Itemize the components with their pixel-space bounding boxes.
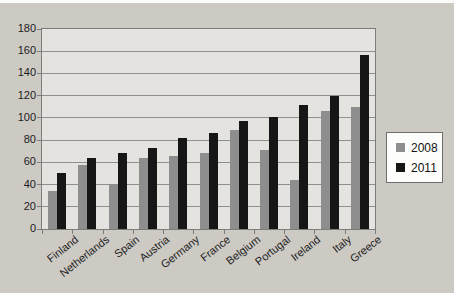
x-tick-8 [284,230,285,234]
plot-area [41,28,376,230]
bar-2011-france [209,133,218,229]
x-tick-2 [103,230,104,234]
x-axis-label-finland: Finland [45,233,81,265]
x-tick-10 [345,230,346,234]
y-tick-180 [37,29,41,30]
y-axis-label: 100 [18,112,36,123]
legend: 20082011 [386,132,443,183]
y-tick-40 [37,184,41,185]
y-axis-label: 60 [24,156,36,167]
x-axis-label-portugal: Portugal [253,233,293,268]
x-axis-label-greece: Greece [348,233,384,265]
y-axis-label: 80 [24,134,36,145]
bar-2008-austria [139,158,148,229]
y-axis-label: 20 [24,201,36,212]
x-tick-3 [133,230,134,234]
legend-item-2008: 2008 [396,142,442,154]
bar-2011-portugal [269,117,278,229]
bar-2008-finland [48,191,57,229]
x-tick-7 [254,230,255,234]
y-axis-label: 0 [30,223,36,234]
y-axis-label: 120 [18,90,36,101]
bar-2008-france [200,153,209,229]
bar-2008-ireland [290,180,299,229]
x-axis-label-france: France [198,233,232,264]
bar-2011-spain [118,153,127,229]
x-tick-6 [224,230,225,234]
bar-2011-ireland [299,105,308,229]
bar-2011-germany [178,138,187,229]
bar-2011-netherlands [87,158,96,229]
bar-2008-germany [169,156,178,229]
x-tick-9 [314,230,315,234]
bar-2008-portugal [260,150,269,229]
gridline-y-140 [42,73,375,74]
page-top-strip [0,0,454,3]
y-tick-120 [37,95,41,96]
x-tick-1 [72,230,73,234]
bar-2008-greece [351,107,360,229]
x-axis-label-italy: Italy [330,233,353,255]
bar-2011-belgium [239,121,248,229]
x-axis-label-belgium: Belgium [224,233,263,267]
bar-2008-spain [109,185,118,229]
y-tick-160 [37,51,41,52]
x-axis-label-spain: Spain [112,233,142,260]
x-tick-11 [375,230,376,234]
y-axis: 020406080100120140160180 [0,28,36,230]
legend-label: 2008 [411,142,438,154]
x-axis-label-ireland: Ireland [289,233,323,263]
chart-figure: 020406080100120140160180 FinlandNetherla… [0,0,454,293]
y-tick-60 [37,162,41,163]
bar-2011-finland [57,173,66,229]
legend-swatch-icon [396,143,405,152]
y-tick-140 [37,73,41,74]
bar-2008-belgium [230,130,239,229]
bar-2008-netherlands [78,165,87,229]
legend-label: 2011 [411,162,437,174]
y-axis-label: 180 [18,23,36,34]
gridline-y-120 [42,95,375,96]
legend-swatch-icon [396,163,405,172]
bar-2011-italy [330,96,339,229]
bar-2008-italy [321,111,330,229]
x-axis-label-netherlands: Netherlands [57,233,111,279]
y-tick-20 [37,206,41,207]
y-axis-label: 140 [18,67,36,78]
x-axis-label-austria: Austria [137,233,171,264]
gridline-y-160 [42,51,375,52]
x-axis-label-germany: Germany [159,233,202,270]
y-tick-0 [37,229,41,230]
bar-2011-greece [360,55,369,229]
x-tick-0 [42,230,43,234]
x-tick-5 [193,230,194,234]
y-tick-100 [37,117,41,118]
y-axis-label: 160 [18,45,36,56]
bar-2011-austria [148,148,157,229]
y-tick-80 [37,140,41,141]
y-axis-label: 40 [24,179,36,190]
legend-item-2011: 2011 [396,162,442,174]
x-tick-4 [163,230,164,234]
